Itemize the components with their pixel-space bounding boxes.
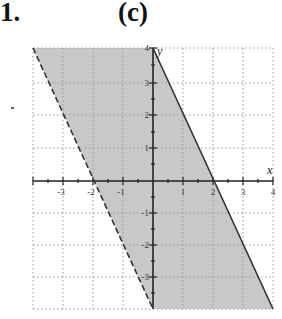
x-tick-label: -2 (87, 187, 95, 197)
y-tick-label: 1 (145, 143, 150, 153)
x-tick-label: 1 (181, 187, 186, 197)
y-tick-label: 4 (145, 43, 150, 53)
x-tick-label: 3 (241, 187, 246, 197)
graph: -3 -2 -1 1 2 3 4 4 3 2 1 -1 -2 -3 y x (0, 0, 282, 319)
y-tick-label: -2 (142, 240, 150, 250)
x-tick-label: 2 (211, 187, 216, 197)
y-tick-label: 3 (145, 78, 150, 88)
y-tick-label: 2 (145, 110, 150, 120)
x-tick-label: 4 (271, 187, 276, 197)
y-tick-label: -3 (142, 272, 150, 282)
x-tick-label: -3 (57, 187, 65, 197)
y-axis-label: y (156, 44, 163, 58)
x-tick-label: -1 (117, 187, 125, 197)
x-axis-label: x (266, 163, 273, 177)
y-tick-label: -1 (142, 208, 150, 218)
